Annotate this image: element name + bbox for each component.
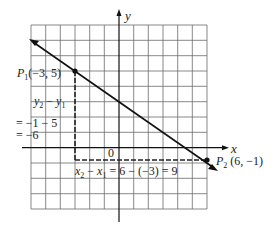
- x-axis-arrow-icon: [222, 145, 229, 150]
- vertical-leg-result: = −6: [16, 128, 39, 142]
- vertical-leg-formula: y2 − y1: [33, 94, 65, 110]
- p1-label: P1(−3, 5): [16, 66, 61, 82]
- y-axis-arrow-icon: [117, 9, 122, 16]
- point-p1: [72, 68, 77, 73]
- point-p2: [204, 157, 209, 162]
- horizontal-leg-formula: x2 − x1 = 6 − (−3) = 9: [74, 164, 178, 180]
- coordinate-diagram: y x 0 P1(−3, 5) P2 (6, −1) y2 − y1 = −1 …: [0, 0, 279, 225]
- origin-label: 0: [108, 146, 114, 160]
- y-axis-label: y: [123, 8, 131, 23]
- p2-label: P2 (6, −1): [215, 154, 263, 170]
